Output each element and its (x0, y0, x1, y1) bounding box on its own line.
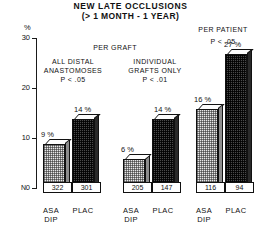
bar-g3-asadip-value: 16 % (194, 96, 211, 104)
y-axis-label: % (24, 24, 31, 32)
section-heading-per-patient: PER PATIENT (188, 26, 258, 33)
group-2-pvalue: P < .01 (118, 76, 192, 83)
bar-g1-asadip-side (65, 139, 70, 188)
group-2-heading-line2: GRAFTS ONLY (118, 67, 192, 74)
x-label-g2-asadip-line2: DIP (116, 215, 146, 224)
chart-canvas: NEW LATE OCCLUSIONS (> 1 MONTH - 1 YEAR)… (0, 0, 261, 235)
bar-g3-plac-side (247, 49, 252, 188)
x-label-g3-asadip-line1: ASA (189, 206, 219, 215)
bar-g2-plac-side (174, 114, 179, 188)
y-tick-10 (32, 138, 36, 139)
bar-g1-plac-value: 14 % (74, 106, 91, 114)
n-value-g3-asadip: 116 (196, 182, 225, 193)
y-tick-30 (32, 38, 36, 39)
bar-g3-asadip (196, 109, 218, 189)
y-tick-label-10: 10 (14, 134, 30, 142)
group-1-heading-line1: ALL DISTAL (36, 58, 110, 65)
x-label-g1-asadip-line1: ASA (36, 206, 66, 215)
bar-g3-asadip-side (218, 104, 223, 188)
n-row: N 322 301 205 147 116 94 (20, 182, 261, 193)
x-label-g1-plac: PLAC (67, 206, 99, 215)
n-value-g2-plac: 147 (152, 182, 181, 193)
x-label-g2-plac: PLAC (147, 206, 179, 215)
section-heading-per-graft: PER GRAFT (80, 44, 150, 51)
bar-g2-plac-value: 14 % (154, 106, 171, 114)
n-row-label: N (21, 182, 26, 193)
n-value-g1-plac: 301 (72, 182, 101, 193)
chart-subtitle: (> 1 MONTH - 1 YEAR) (0, 12, 261, 21)
n-value-g1-asadip: 322 (43, 182, 72, 193)
bar-g1-plac-side (94, 114, 99, 188)
group-3-pvalue: P < .05 (188, 38, 258, 45)
chart-title: NEW LATE OCCLUSIONS (0, 2, 261, 11)
bar-g3-plac (225, 54, 247, 189)
y-tick-label-20: 20 (14, 84, 30, 92)
n-value-g3-plac: 94 (225, 182, 254, 193)
x-label-g1-asadip-line2: DIP (36, 215, 66, 224)
bar-g2-plac (152, 119, 174, 189)
bar-g2-asadip-value: 6 % (121, 146, 134, 154)
bar-g1-asadip-value: 9 % (41, 131, 54, 139)
y-tick-label-30: 30 (14, 34, 30, 42)
x-label-g2-asadip-line1: ASA (116, 206, 146, 215)
group-2-heading-line1: INDIVIDUAL (118, 58, 192, 65)
bar-g3-plac-value: 27 % (224, 41, 241, 49)
group-1-heading-line2: ANASTOMOSES (33, 67, 113, 74)
y-tick-20 (32, 88, 36, 89)
group-1-pvalue: P < .05 (36, 76, 110, 83)
bar-g1-plac (72, 119, 94, 189)
x-label-g3-asadip-line2: DIP (189, 215, 219, 224)
n-value-g2-asadip: 205 (123, 182, 152, 193)
x-label-g3-plac: PLAC (220, 206, 252, 215)
